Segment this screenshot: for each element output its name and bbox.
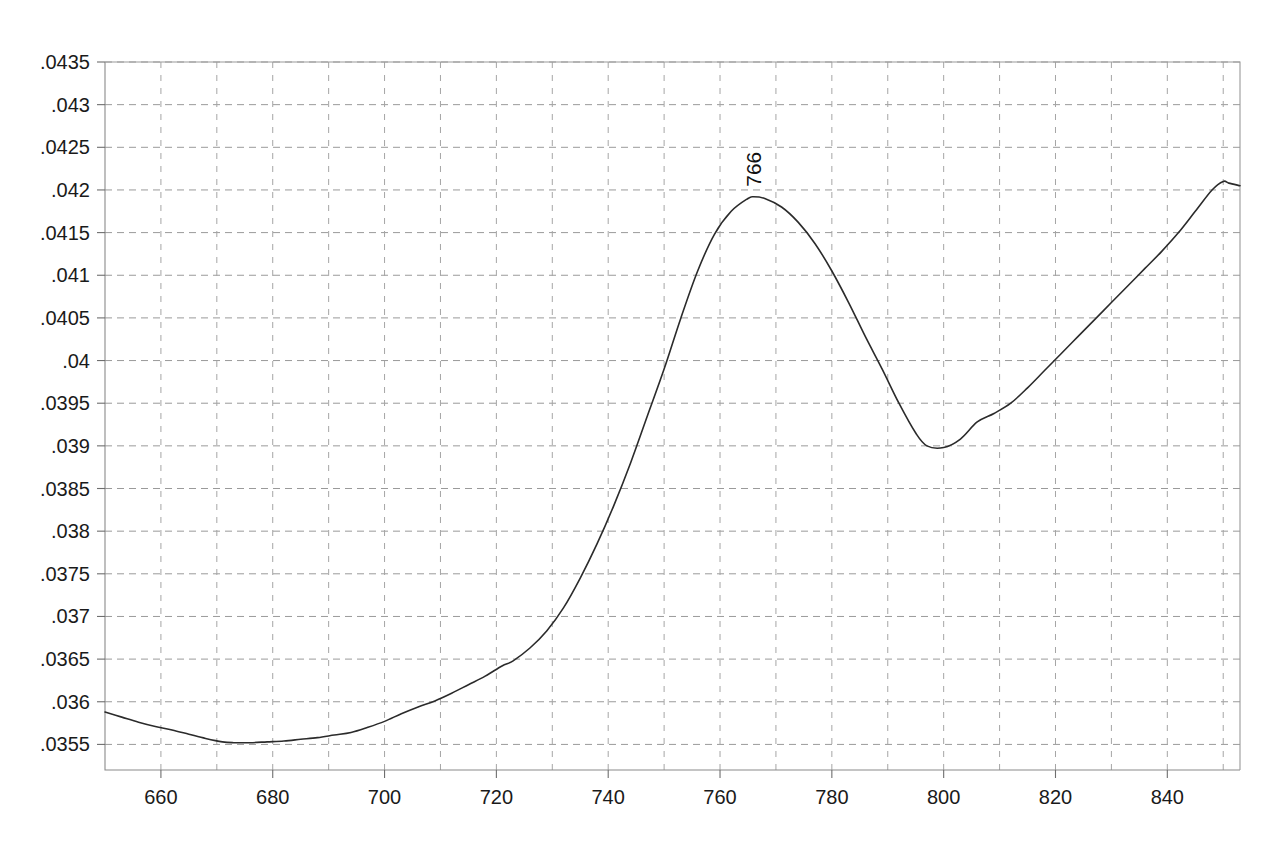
y-tick-label: .0375 <box>40 563 90 585</box>
axis-frame <box>105 62 1240 770</box>
spectrum-curve <box>105 181 1240 743</box>
peak-annotation: 766 <box>742 152 765 187</box>
y-tick-label: .0405 <box>40 307 90 329</box>
y-tick-label: .043 <box>51 94 90 116</box>
x-tick-label: 740 <box>592 786 625 808</box>
y-tick-label: .0415 <box>40 222 90 244</box>
axis-top-right <box>105 62 1240 770</box>
x-tick-label: 700 <box>368 786 401 808</box>
x-tick-label: 680 <box>256 786 289 808</box>
x-tick-label: 760 <box>703 786 736 808</box>
y-tick-label: .0385 <box>40 478 90 500</box>
y-tick-label: .0355 <box>40 733 90 755</box>
spectrum-line-spectrum <box>105 181 1240 743</box>
x-tick-label: 780 <box>815 786 848 808</box>
vertical-gridlines <box>161 62 1223 770</box>
y-tick-label: .038 <box>51 520 90 542</box>
y-tick-label: .041 <box>51 264 90 286</box>
horizontal-gridlines <box>105 62 1240 744</box>
x-tick-label: 660 <box>144 786 177 808</box>
y-tick-label: .037 <box>51 605 90 627</box>
x-tick-label: 720 <box>480 786 513 808</box>
y-axis-ticks <box>97 62 105 744</box>
y-tick-label: .04 <box>62 350 90 372</box>
y-tick-label: .0435 <box>40 51 90 73</box>
y-tick-label: .0365 <box>40 648 90 670</box>
x-tick-label: 840 <box>1151 786 1184 808</box>
x-axis-ticks <box>161 770 1167 778</box>
spectrum-chart: .0435.043.0425.042.0415.041.0405.04.0395… <box>0 0 1279 848</box>
y-axis-tick-labels: .0435.043.0425.042.0415.041.0405.04.0395… <box>40 51 90 755</box>
axis-left-bottom <box>105 62 1240 770</box>
peak-label-766: 766 <box>742 152 765 187</box>
y-tick-label: .0425 <box>40 136 90 158</box>
y-tick-label: .042 <box>51 179 90 201</box>
y-tick-label: .039 <box>51 435 90 457</box>
chart-canvas: .0435.043.0425.042.0415.041.0405.04.0395… <box>0 0 1279 848</box>
x-tick-label: 820 <box>1039 786 1072 808</box>
x-tick-label: 800 <box>927 786 960 808</box>
y-tick-label: .0395 <box>40 392 90 414</box>
x-axis-tick-labels: 660680700720740760780800820840 <box>144 786 1184 808</box>
y-tick-label: .036 <box>51 691 90 713</box>
